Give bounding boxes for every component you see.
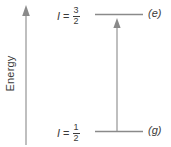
energy-level-diagram: Energy I = 3 2 I = 1 2 (e) (g) (0, 0, 171, 147)
energy-axis-label: Energy (2, 0, 18, 147)
spin-fraction-excited: 3 2 (73, 6, 80, 27)
excitation-arrow (113, 18, 120, 131)
spin-label-excited: I = 3 2 (57, 6, 80, 27)
fraction-denominator-ground: 2 (73, 134, 80, 143)
equals-sign-excited: = (62, 11, 70, 22)
spin-symbol-ground: I (57, 128, 60, 139)
state-tag-ground: (g) (148, 125, 161, 136)
excitation-arrow-head-icon (113, 18, 120, 28)
spin-fraction-ground: 1 2 (73, 123, 80, 144)
spin-symbol-excited: I (57, 11, 60, 22)
fraction-denominator-excited: 2 (73, 17, 80, 26)
equals-sign-ground: = (62, 128, 70, 139)
fraction-numerator-excited: 3 (73, 6, 80, 15)
diagram-canvas (0, 0, 171, 147)
spin-label-ground: I = 1 2 (57, 123, 80, 144)
state-tag-excited: (e) (148, 8, 161, 19)
up-arrow-icon (22, 5, 30, 16)
fraction-numerator-ground: 1 (73, 123, 80, 132)
energy-axis (22, 5, 30, 145)
